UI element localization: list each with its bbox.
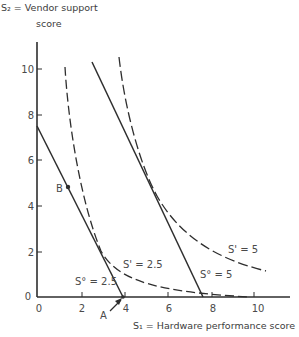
point-b-label: B: [56, 183, 63, 194]
x-axis-title: S₁ = Hardware performance score: [133, 320, 295, 331]
x-tick-label: 6: [166, 303, 172, 314]
label-s-deg-5: S° = 5: [200, 269, 232, 280]
label-s-prime-2-5: S' = 2.5: [123, 259, 163, 270]
y-axis-title: S₂ = Vendor support: [1, 2, 98, 13]
y-axis-title-line2: score: [36, 18, 62, 29]
y-tick-label: 6: [28, 155, 34, 166]
y-tick-label: 8: [28, 110, 34, 121]
arrowhead-icon: [115, 298, 122, 305]
indifference-curve-s-prime-5: [119, 57, 266, 271]
point-a-label: A: [100, 310, 107, 321]
x-tick-label: 2: [79, 303, 85, 314]
point-b-marker: [66, 185, 70, 189]
x-tick-label: 0: [36, 303, 42, 314]
label-s-deg-2-5: S° = 2.5: [75, 276, 117, 287]
chart: S₂ = Vendor support score 0 2 4 6 8 10 0…: [0, 0, 299, 337]
y-tick-label: 2: [28, 247, 34, 258]
label-s-prime-5: S' = 5: [228, 244, 258, 255]
y-tick-label: 10: [21, 64, 34, 75]
x-tick-label: 4: [123, 303, 129, 314]
x-tick-label: 8: [210, 303, 216, 314]
y-tick-label: 4: [28, 201, 34, 212]
budget-line-s-deg-2-5: [37, 126, 123, 297]
x-tick-label: 10: [252, 303, 265, 314]
y-tick-label: 0: [25, 291, 31, 302]
